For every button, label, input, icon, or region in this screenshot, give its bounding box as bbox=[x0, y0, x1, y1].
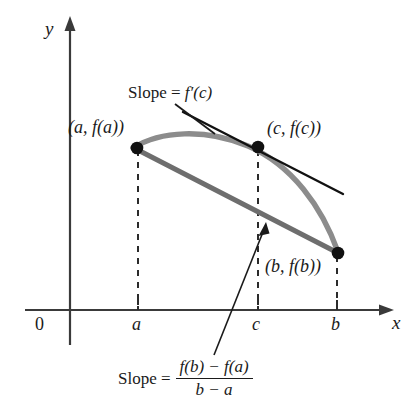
secant-slope-annotation: Slope = f(b) − f(a) b − a bbox=[118, 357, 253, 400]
y-axis-arrowhead bbox=[65, 16, 76, 31]
point-a-dot bbox=[131, 142, 144, 155]
x-tick-label-c: c bbox=[252, 315, 260, 333]
point-a-label: (a, f(a)) bbox=[68, 118, 124, 136]
origin-label: 0 bbox=[35, 315, 44, 333]
tangent-slope-prefix: Slope = bbox=[128, 83, 185, 102]
tangent-slope-annotation: Slope = f′(c) bbox=[128, 84, 212, 101]
secant-leader-arrowhead bbox=[259, 222, 270, 236]
axes-group bbox=[25, 16, 394, 345]
dashed-projection-lines bbox=[138, 150, 337, 310]
figure-canvas bbox=[0, 0, 410, 409]
y-axis-label: y bbox=[45, 19, 53, 38]
x-tick-label-a: a bbox=[132, 315, 141, 333]
point-b-label: (b, f(b)) bbox=[265, 257, 321, 275]
point-b-dot bbox=[332, 247, 345, 260]
point-c-label: (c, f(c)) bbox=[267, 119, 321, 137]
secant-leader-line bbox=[214, 232, 263, 355]
tangent-leader-line bbox=[175, 104, 215, 134]
x-tick-marks bbox=[138, 300, 337, 310]
secant-leader-group bbox=[214, 222, 270, 355]
secant-slope-prefix: Slope = bbox=[118, 369, 171, 389]
x-axis-label: x bbox=[392, 313, 400, 332]
mvt-figure: y x 0 a c b (a, f(a)) (c, f(c)) (b, f(b)… bbox=[0, 0, 410, 409]
secant-slope-denominator: b − a bbox=[192, 379, 237, 400]
tangent-slope-expression: f′(c) bbox=[185, 83, 212, 102]
x-tick-label-b: b bbox=[331, 315, 340, 333]
secant-slope-fraction: f(b) − f(a) b − a bbox=[176, 357, 253, 400]
point-c-dot bbox=[252, 141, 265, 154]
secant-slope-numerator: f(b) − f(a) bbox=[176, 357, 253, 378]
